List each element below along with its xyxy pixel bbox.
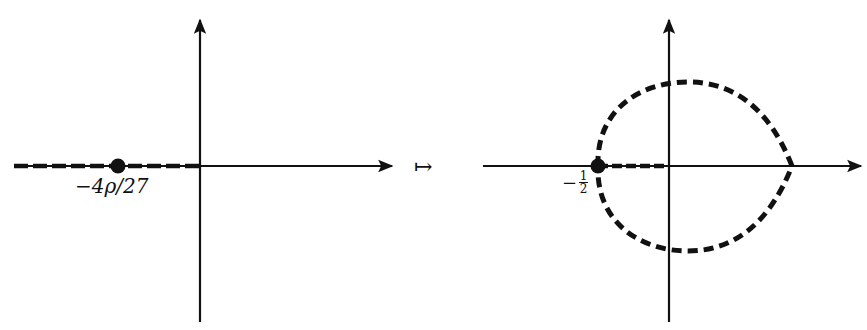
- diagram-canvas: [0, 0, 867, 330]
- left-point-label: −4ρ/27: [75, 174, 148, 198]
- right-marked-point: [591, 159, 606, 174]
- left-marked-point: [111, 159, 126, 174]
- right-panel: [483, 20, 861, 322]
- fraction-numerator: 1: [580, 170, 588, 182]
- right-point-label: − 1 2: [562, 170, 588, 195]
- right-point-label-fraction: 1 2: [579, 170, 588, 195]
- mapsto-symbol: ↦: [414, 154, 432, 179]
- fraction-denominator: 2: [580, 183, 588, 195]
- left-panel: [14, 20, 392, 322]
- right-point-label-minus: −: [562, 172, 577, 193]
